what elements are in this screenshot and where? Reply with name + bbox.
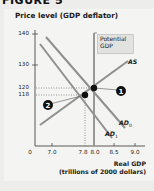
x-tick-label-7.0: 7.0 xyxy=(45,149,59,155)
as-label: AS xyxy=(128,58,137,65)
equilibrium-point-1 xyxy=(91,85,97,91)
y-tick-label-118: 118 xyxy=(11,91,29,97)
ad0-curve xyxy=(46,37,125,128)
x-tick-label-8.5: 8.5 xyxy=(107,149,121,155)
x-axis-label-line1: Real GDP xyxy=(114,160,146,167)
x-tick-label-8.0: 8.0 xyxy=(88,149,102,155)
y-tick-label-130: 130 xyxy=(11,61,29,67)
ad1-curve xyxy=(40,44,112,138)
marker-2-text: 2 xyxy=(46,102,51,110)
ad0-label: AD0 xyxy=(119,119,132,128)
x-tick-label-9.0: 9.0 xyxy=(128,149,142,155)
x-axis-label-line2: (trillions of 2000 dollars) xyxy=(59,168,146,175)
y-tick-label-120: 120 xyxy=(11,84,29,90)
y-tick-label-140: 140 xyxy=(11,30,29,36)
x-tick-label-0: 0 xyxy=(23,149,37,155)
marker-1-text: 1 xyxy=(119,88,124,96)
equilibrium-point-2 xyxy=(82,92,88,98)
ad1-label: AD1 xyxy=(105,130,118,139)
